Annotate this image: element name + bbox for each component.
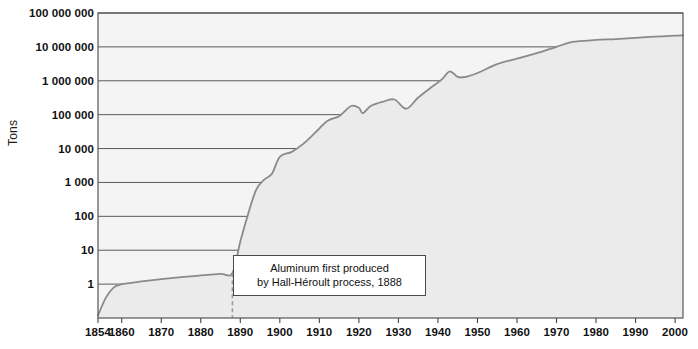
x-tick-label: 1960 — [504, 326, 530, 338]
y-axis-tick-labels: 100 000 00010 000 0001 000 000100 00010 … — [0, 0, 94, 349]
x-tick-label: 1990 — [623, 326, 649, 338]
annotation-hall-heroult: Aluminum first produced by Hall-Héroult … — [233, 255, 426, 296]
y-tick-label: 1 — [2, 278, 94, 290]
y-tick-label: 100 000 000 — [2, 7, 94, 19]
x-tick-label: 1890 — [227, 326, 253, 338]
annotation-line-2: by Hall-Héroult process, 1888 — [240, 275, 419, 289]
x-tick-label: 1940 — [425, 326, 451, 338]
x-tick-label: 1920 — [346, 326, 372, 338]
y-tick-label: 10 000 000 — [2, 41, 94, 53]
y-tick-label: 10 — [2, 244, 94, 256]
y-tick-label: 1 000 — [2, 176, 94, 188]
x-axis-ticks — [98, 318, 675, 323]
y-tick-label: 100 000 — [2, 109, 94, 121]
x-tick-label: 1900 — [267, 326, 293, 338]
x-tick-label: 1880 — [188, 326, 214, 338]
x-tick-label: 1870 — [148, 326, 174, 338]
x-tick-label: 1970 — [544, 326, 570, 338]
x-tick-label: 1860 — [109, 326, 135, 338]
x-tick-label: 1980 — [583, 326, 609, 338]
annotation-line-1: Aluminum first produced — [240, 261, 419, 275]
y-tick-label: 1 000 000 — [2, 75, 94, 87]
x-tick-label: 1910 — [306, 326, 332, 338]
x-tick-label: 2000 — [662, 326, 688, 338]
chart-plot-area — [0, 0, 698, 349]
x-tick-label: 1950 — [464, 326, 490, 338]
aluminum-production-chart: Tons 100 000 00010 000 0001 000 000100 0… — [0, 0, 698, 349]
x-tick-label: 1854 — [85, 326, 111, 338]
x-tick-label: 1930 — [385, 326, 411, 338]
y-tick-label: 100 — [2, 210, 94, 222]
y-tick-label: 10 000 — [2, 143, 94, 155]
